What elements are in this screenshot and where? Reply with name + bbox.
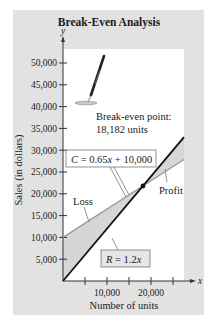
y-tick-label: 45,000 xyxy=(31,80,57,90)
y-tick-label: 15,000 xyxy=(31,211,57,221)
break-even-chart: Break-Even Analysis y 5,000 10,000 15,00… xyxy=(0,0,218,327)
cost-eq-tail: + 10,000 xyxy=(112,154,152,165)
y-tick-label: 25,000 xyxy=(31,167,57,177)
y-axis-symbol: y xyxy=(60,26,66,36)
break-even-units: 18,182 units xyxy=(96,124,148,135)
y-tick-label: 5,000 xyxy=(36,255,58,265)
y-axis-title: Sales (in dollars) xyxy=(13,134,25,206)
x-tick-label: 20,000 xyxy=(138,288,164,298)
y-tick-label: 30,000 xyxy=(31,146,57,156)
break-even-point xyxy=(141,184,146,189)
svg-text:R = 1.2x: R = 1.2x xyxy=(105,254,142,265)
svg-text:C = 0.65x + 10,000: C = 0.65x + 10,000 xyxy=(71,154,152,165)
y-tick-label: 10,000 xyxy=(31,233,57,243)
rev-eq-var: x xyxy=(136,254,142,265)
chart-title: Break-Even Analysis xyxy=(58,16,161,29)
y-tick-label: 20,000 xyxy=(31,189,57,199)
y-tick-label: 35,000 xyxy=(31,124,57,134)
y-tick-label: 50,000 xyxy=(31,58,57,68)
profit-label: Profit xyxy=(159,185,183,196)
x-axis-title: Number of units xyxy=(90,300,159,311)
y-tick-label: 40,000 xyxy=(31,102,57,112)
x-tick-label: 10,000 xyxy=(94,288,120,298)
cost-eq-rhs: = 0.65 xyxy=(78,154,108,165)
x-axis-symbol: x xyxy=(197,276,203,286)
break-even-label: Break-even point: xyxy=(96,111,172,122)
loss-label: Loss xyxy=(73,196,93,207)
rev-eq-rhs: = 1.2 xyxy=(112,254,136,265)
